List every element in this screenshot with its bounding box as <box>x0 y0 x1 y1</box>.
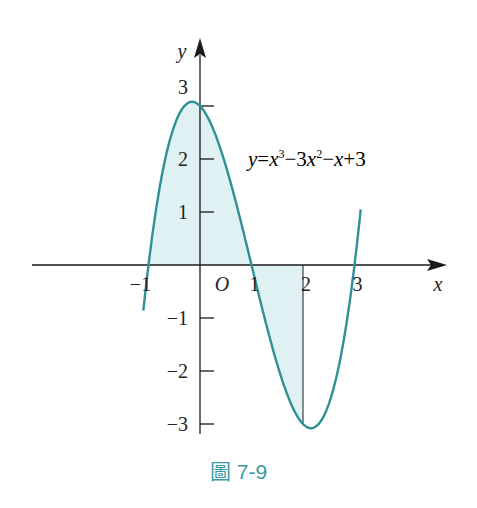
svg-text:2: 2 <box>301 273 311 295</box>
svg-text:−2: −2 <box>167 360 188 382</box>
svg-text:x: x <box>433 273 443 295</box>
svg-text:−3: −3 <box>167 413 188 435</box>
function-graph: 321−1−2−3−1123Oxy y=x3−3x2−x+3 <box>0 0 477 450</box>
svg-text:1: 1 <box>250 273 260 295</box>
figure-caption: 圖 7-9 <box>0 455 477 485</box>
svg-text:3: 3 <box>353 273 363 295</box>
equation-label: y=x3−3x2−x+3 <box>246 147 366 171</box>
svg-text:O: O <box>215 273 229 295</box>
svg-text:2: 2 <box>178 148 188 170</box>
svg-text:−1: −1 <box>167 307 188 329</box>
svg-text:y: y <box>176 40 187 63</box>
svg-text:3: 3 <box>178 76 188 98</box>
svg-text:−1: −1 <box>130 273 151 295</box>
svg-text:1: 1 <box>178 201 188 223</box>
